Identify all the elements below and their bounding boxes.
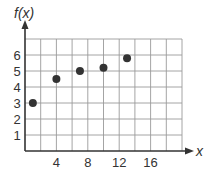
x-tick-label: 12: [112, 155, 126, 170]
data-point: [29, 99, 37, 107]
chart-grid: [25, 39, 182, 151]
data-point: [76, 67, 84, 75]
scatter-chart: 123456 481216 f(x) x: [0, 0, 213, 174]
y-tick-label: 3: [13, 96, 20, 111]
y-tick-label: 1: [13, 128, 20, 143]
data-points: [29, 54, 131, 107]
y-tick-label: 2: [13, 112, 20, 127]
x-tick-label: 4: [53, 155, 60, 170]
x-tick-label: 8: [84, 155, 91, 170]
x-tick-labels: 481216: [53, 155, 158, 170]
y-tick-labels: 123456: [13, 48, 20, 143]
x-axis-arrow-icon: [185, 148, 194, 155]
x-tick-label: 16: [143, 155, 157, 170]
data-point: [52, 75, 60, 83]
y-tick-label: 6: [13, 48, 20, 63]
y-axis-arrow-icon: [22, 20, 29, 29]
y-tick-label: 4: [13, 80, 20, 95]
x-axis-label: x: [195, 143, 204, 159]
data-point: [100, 64, 108, 72]
y-axis-label: f(x): [14, 5, 34, 21]
data-point: [123, 54, 131, 62]
y-tick-label: 5: [13, 64, 20, 79]
